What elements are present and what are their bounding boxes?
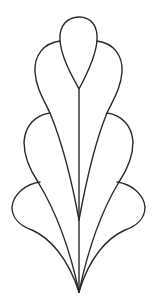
middle-right-lobe [79,41,122,220]
middle-left-lobe [35,41,79,220]
lower-left-lobe [24,113,79,292]
top-lobe [60,17,97,89]
lower-right-lobe [79,113,133,292]
feather-motif-drawing [0,0,156,299]
bottom-left-lobe [12,182,79,292]
line-art-canvas [0,0,156,299]
bottom-right-lobe [79,182,145,292]
